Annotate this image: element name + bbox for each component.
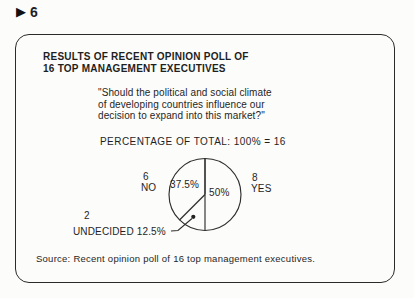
undecided-label: UNDECIDED 12.5% (73, 226, 166, 237)
slide-marker: ▶ 6 (16, 4, 38, 20)
no-percent: 37.5% (170, 179, 199, 190)
yes-count: 8 (252, 172, 258, 183)
play-triangle-icon: ▶ (16, 5, 26, 19)
undecided-label-text: UNDECIDED (73, 226, 134, 237)
undecided-percent: 12.5% (137, 226, 166, 237)
slide-title: RESULTS OF RECENT OPINION POLL OF 16 TOP… (43, 51, 323, 75)
survey-question: "Should the political and social climate… (98, 87, 313, 122)
no-count: 6 (143, 171, 149, 182)
source-note: Source: Recent opinion poll of 16 top ma… (36, 253, 315, 264)
chart-subtitle: PERCENTAGE OF TOTAL: 100% = 16 (100, 136, 286, 147)
yes-label: YES (251, 183, 271, 194)
undecided-count: 2 (84, 210, 90, 221)
no-label: NO (141, 182, 156, 193)
yes-percent: 50% (209, 187, 229, 198)
slide-number: 6 (30, 4, 38, 20)
